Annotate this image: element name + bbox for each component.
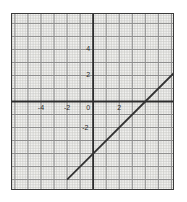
plotted-line — [11, 13, 174, 190]
plot-area — [11, 13, 174, 190]
coordinate-plane-figure: -4-20242-2 — [0, 0, 187, 202]
y-axis-tick-label: 4 — [86, 45, 90, 53]
y-axis-tick-label: 2 — [86, 71, 90, 79]
y-axis-tick-label: -2 — [82, 124, 88, 132]
x-axis-tick-label: 2 — [117, 104, 121, 112]
x-axis-tick-label: -4 — [38, 104, 44, 112]
x-axis-tick-label: -2 — [64, 104, 70, 112]
x-axis-tick-label: 0 — [86, 104, 90, 112]
